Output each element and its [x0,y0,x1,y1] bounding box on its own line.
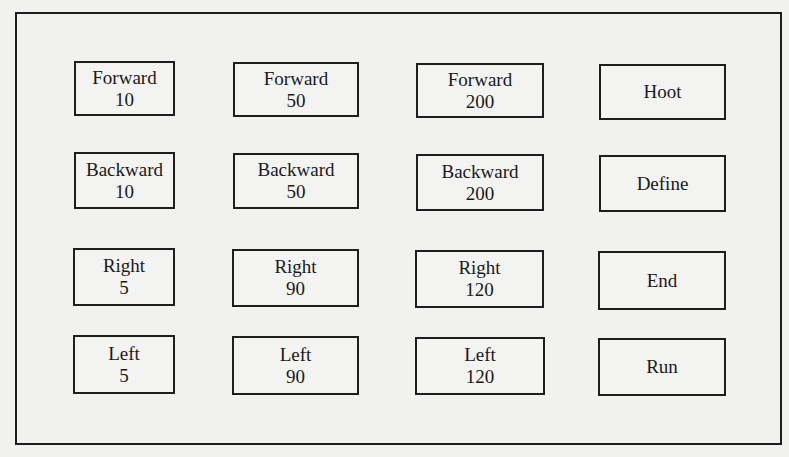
key-label: Left [464,344,496,366]
key-value: 10 [115,181,134,203]
run-button[interactable]: Run [598,338,726,396]
key-label: Backward [257,159,334,181]
key-value: 50 [287,90,306,112]
forward-50-button[interactable]: Forward 50 [233,62,359,117]
key-value: 120 [465,279,494,301]
key-value: 120 [466,366,495,388]
left-120-button[interactable]: Left 120 [415,337,545,395]
left-90-button[interactable]: Left 90 [232,336,359,395]
key-label: Left [108,343,140,365]
backward-50-button[interactable]: Backward 50 [233,153,359,209]
key-label: Right [274,256,316,278]
hoot-button[interactable]: Hoot [599,64,726,120]
key-label: Backward [86,159,163,181]
key-value: 5 [119,277,129,299]
end-button[interactable]: End [598,251,726,310]
backward-10-button[interactable]: Backward 10 [74,152,175,209]
key-label: Define [637,173,689,195]
key-value: 90 [286,366,305,388]
key-value: 5 [119,365,129,387]
key-value: 200 [466,183,495,205]
key-value: 200 [466,91,495,113]
key-label: Right [103,255,145,277]
key-label: Hoot [644,81,682,103]
key-value: 50 [287,181,306,203]
left-5-button[interactable]: Left 5 [73,335,175,394]
key-label: Backward [441,161,518,183]
right-5-button[interactable]: Right 5 [73,248,175,306]
key-label: End [647,270,678,292]
key-value: 10 [115,89,134,111]
right-120-button[interactable]: Right 120 [415,250,544,308]
key-value: 90 [286,278,305,300]
key-label: Forward [92,67,156,89]
key-label: Left [280,344,312,366]
forward-200-button[interactable]: Forward 200 [416,63,544,118]
key-label: Forward [448,69,512,91]
right-90-button[interactable]: Right 90 [232,249,359,307]
key-label: Right [458,257,500,279]
forward-10-button[interactable]: Forward 10 [74,61,175,116]
key-label: Forward [264,68,328,90]
key-label: Run [646,356,678,378]
define-button[interactable]: Define [599,155,726,212]
backward-200-button[interactable]: Backward 200 [416,154,544,211]
